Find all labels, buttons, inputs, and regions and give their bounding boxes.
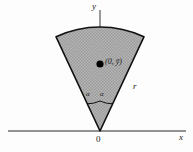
sector-centroid-figure: y x 0 (0, ȳ) r α α [0,0,193,152]
angle-label-left: α [86,91,90,98]
x-axis-label: x [179,133,183,142]
origin-label: 0 [96,135,101,144]
centroid-coordinate-label: (0, ȳ) [105,58,122,66]
figure-canvas [0,0,193,152]
y-axis-label: y [92,2,96,11]
radius-label: r [133,82,137,91]
sector-shape [56,27,144,131]
angle-label-right: α [100,91,104,98]
centroid-point-marker [96,60,103,67]
